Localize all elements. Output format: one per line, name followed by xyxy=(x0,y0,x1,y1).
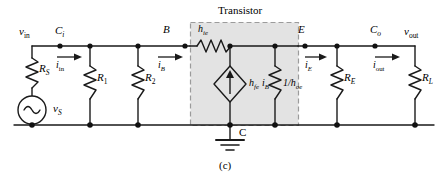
dot-re-bottom xyxy=(334,122,340,128)
label-r1-sub: 1 xyxy=(104,77,108,86)
label-ci-sub: i xyxy=(62,30,64,39)
dot-re-top xyxy=(334,43,339,48)
dot-emitter xyxy=(302,43,307,48)
label-resistor-re: RE xyxy=(344,72,355,86)
label-source-vs: vS xyxy=(53,103,62,117)
label-hfe-sub: fe xyxy=(254,83,259,90)
label-r2-sub: 2 xyxy=(152,77,156,86)
dot-r2-bottom xyxy=(135,122,141,128)
label-i-out-sub: out xyxy=(376,65,385,72)
label-r2-base: R xyxy=(145,71,152,83)
dot-depsource-top xyxy=(227,43,232,48)
label-ib-sub: B xyxy=(265,83,269,90)
dot-source-bottom xyxy=(29,122,35,128)
resistor-rl-glyph xyxy=(409,66,421,99)
label-re-base: R xyxy=(344,71,351,83)
label-terminal-collector: C xyxy=(239,127,246,138)
label-hoe-sub: oe xyxy=(296,83,302,90)
label-resistor-hie: hie xyxy=(198,24,208,37)
label-r1-base: R xyxy=(97,71,104,83)
dot-base xyxy=(182,43,187,48)
label-resistor-rl: RL xyxy=(422,72,433,86)
label-v-out: vout xyxy=(404,26,418,40)
label-v-out-sub: out xyxy=(409,31,419,40)
label-re-sub: E xyxy=(351,77,356,86)
label-coupling-cap-out: Co xyxy=(370,24,381,38)
label-coupling-cap-in: Ci xyxy=(55,25,64,39)
dot-hoe-top xyxy=(272,43,277,48)
ac-voltage-source-glyph xyxy=(18,96,46,124)
resistor-re-glyph xyxy=(331,66,343,99)
label-current-i-b: iB xyxy=(158,60,165,73)
label-current-i-out: iout xyxy=(373,60,384,73)
label-current-i-in: iin xyxy=(56,60,64,73)
figure-caption: (c) xyxy=(219,160,231,171)
label-terminal-emitter: E xyxy=(298,24,305,35)
label-rl-base: R xyxy=(422,71,429,83)
label-v-in: vin xyxy=(19,26,30,40)
dot-hoe-bottom xyxy=(272,122,278,128)
transistor-box-title: Transistor xyxy=(218,5,262,16)
label-resistor-rs: RS xyxy=(39,63,49,77)
label-vs-sub: S xyxy=(58,108,62,117)
resistor-r2-glyph xyxy=(132,66,144,99)
label-i-b-sub: B xyxy=(161,65,165,72)
label-i-in-sub: in xyxy=(59,65,64,72)
label-i-e-sub: E xyxy=(308,65,312,72)
resistor-rs-glyph xyxy=(26,58,38,88)
resistor-r1-glyph xyxy=(84,66,96,99)
dot-r1-top xyxy=(87,43,92,48)
circuit-diagram-figure: Transistor vin Ci iin RS vS R1 R2 B iB h… xyxy=(0,0,448,178)
dot-r1-bottom xyxy=(87,122,93,128)
label-v-in-sub: in xyxy=(24,31,30,40)
ground-symbol-glyph xyxy=(216,140,244,150)
transistor-model-box xyxy=(191,23,299,126)
label-resistor-r1: R1 xyxy=(97,72,107,86)
dot-co xyxy=(372,43,377,48)
label-current-i-e: iE xyxy=(305,60,312,73)
dot-collector xyxy=(227,122,233,128)
label-co-sub: o xyxy=(377,29,381,38)
dot-ci xyxy=(57,43,62,48)
label-rl-sub: L xyxy=(429,77,433,86)
label-resistor-r2: R2 xyxy=(145,72,155,86)
dot-r2-top xyxy=(135,43,140,48)
label-resistor-hoe: 1/hoe xyxy=(283,78,302,91)
dot-rl-bottom xyxy=(412,122,418,128)
label-dependent-source: hfeiB xyxy=(249,78,269,91)
label-hie-sub: ie xyxy=(203,29,208,36)
label-rs-base: R xyxy=(39,62,46,74)
label-hoe-prefix: 1/ xyxy=(283,77,291,88)
label-terminal-base: B xyxy=(163,24,170,35)
label-rs-sub: S xyxy=(46,68,50,77)
